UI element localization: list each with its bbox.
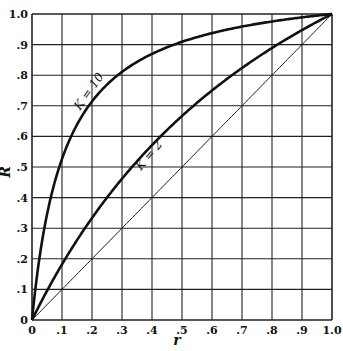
x-tick-label: .3 xyxy=(116,324,127,337)
y-tick-label: .3 xyxy=(17,222,28,235)
y-tick-label: .4 xyxy=(17,192,29,205)
y-tick-label: .7 xyxy=(17,100,28,113)
x-tick-label: 1.0 xyxy=(322,324,341,337)
y-tick-label: .8 xyxy=(17,69,29,82)
curve-label: K = 2 xyxy=(132,138,165,174)
chart: 0.1.2.3.4.5.6.7.8.91.00.1.2.3.4.5.6.7.8.… xyxy=(0,0,343,351)
x-tick-label: .2 xyxy=(86,324,97,337)
y-axis-label: R xyxy=(0,166,13,179)
y-tick-label: 1.0 xyxy=(9,8,28,21)
x-tick-label: 0 xyxy=(28,324,36,337)
y-tick-label: .1 xyxy=(17,283,28,296)
y-tick-label: 0 xyxy=(20,314,28,327)
x-tick-label: .9 xyxy=(296,324,307,337)
x-tick-label: .4 xyxy=(146,324,158,337)
x-tick-label: .1 xyxy=(56,324,67,337)
y-tick-label: .9 xyxy=(17,39,28,52)
y-tick-label: .2 xyxy=(17,253,28,266)
x-tick-label: .7 xyxy=(236,324,247,337)
x-tick-label: .6 xyxy=(206,324,218,337)
y-tick-label: .5 xyxy=(17,161,28,174)
curve-labels: K = 10K = 2 xyxy=(70,70,165,174)
y-tick-label: .6 xyxy=(17,130,29,143)
x-tick-label: .8 xyxy=(266,324,278,337)
